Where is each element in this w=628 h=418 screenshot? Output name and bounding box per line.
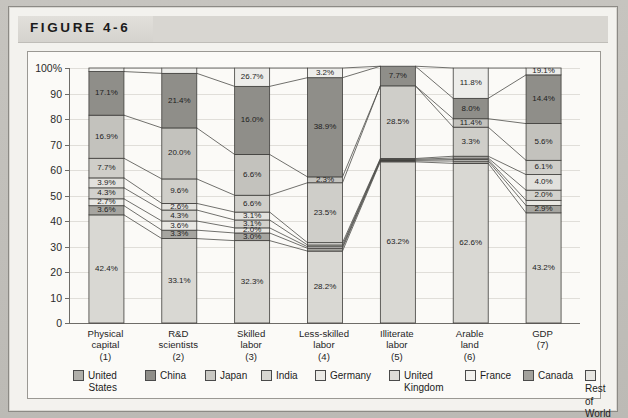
x-axis-label-line: Skilled: [215, 328, 288, 339]
x-axis-label: Physicalcapital(1): [69, 328, 142, 362]
y-tick-label: 30: [50, 241, 62, 253]
connector-line: [488, 163, 526, 212]
chart-card: 0102030405060708090100% 42.4%3.6%2.7%4.3…: [27, 51, 601, 399]
connector-line: [124, 158, 162, 179]
x-axis-label-line: Arable: [433, 328, 506, 339]
connector-line: [197, 128, 235, 155]
bar-segment: [453, 68, 488, 98]
legend-label: Canada: [538, 370, 573, 382]
bar-segment: [162, 68, 197, 73]
connector-line: [270, 78, 308, 87]
x-axis-label-line: labor: [360, 339, 433, 350]
legend-label: India: [276, 370, 298, 382]
legend-swatch: [261, 370, 272, 381]
bar-segment: [162, 203, 197, 210]
x-axis-label-line: GDP: [506, 328, 579, 339]
connector-line: [415, 86, 453, 119]
connector-line: [197, 179, 235, 195]
bar-segment: [380, 86, 415, 159]
x-axis-label-line: (7): [506, 339, 579, 350]
connector-line: [124, 72, 162, 74]
connector-line: [270, 183, 308, 195]
bar-segment: [235, 68, 270, 86]
x-axis-label-line: (1): [69, 351, 142, 362]
connector-line: [270, 228, 308, 247]
legend-item[interactable]: UnitedKingdom: [389, 370, 443, 395]
bar-segment: [162, 128, 197, 179]
bar-segment: [526, 75, 561, 124]
legend-label: UnitedKingdom: [404, 370, 443, 395]
bar-segment: [162, 221, 197, 230]
x-axis-label-line: (5): [360, 351, 433, 362]
figure-frame: FIGURE 4-6 0102030405060708090100% 42.4%…: [8, 6, 618, 412]
bar-segment: [526, 200, 561, 205]
connector-line: [343, 162, 381, 251]
legend-item[interactable]: Rest ofWorld: [585, 370, 611, 418]
y-tick-label: 100%: [35, 62, 62, 74]
y-tick-label: 20: [50, 266, 62, 278]
connector-line: [197, 221, 235, 228]
legend-label: Japan: [220, 370, 247, 382]
x-axis-label-line: (4): [288, 351, 361, 362]
bar-segment: [453, 119, 488, 127]
legend-swatch: [315, 370, 326, 381]
bar-segment: [308, 68, 343, 78]
bar-segment: [308, 183, 343, 243]
connector-line: [124, 178, 162, 204]
x-axis-label-line: (3): [215, 351, 288, 362]
bar-segment: [235, 241, 270, 323]
connector-line: [415, 66, 453, 98]
bar-segment: [89, 206, 124, 215]
connector-line: [197, 73, 235, 86]
legend-item[interactable]: UnitedStates: [73, 370, 117, 395]
bar-segment: [453, 163, 488, 323]
connector-line: [270, 154, 308, 176]
figure-header-band: [153, 16, 608, 42]
bar-segment: [453, 127, 488, 156]
bar-segment: [235, 195, 270, 212]
connector-line: [343, 86, 381, 177]
y-tick-label: 60: [50, 164, 62, 176]
legend-swatch: [389, 370, 400, 381]
figure-header: FIGURE 4-6: [18, 16, 608, 43]
connector-line: [343, 159, 381, 245]
connector-line: [415, 160, 453, 161]
legend-swatch: [585, 370, 596, 381]
stacked-bar-chart: 0102030405060708090100% 42.4%3.6%2.7%4.3…: [28, 52, 600, 398]
legend-swatch: [73, 370, 84, 381]
bar-segment: [89, 178, 124, 188]
x-axis-label: Illiteratelabor(5): [360, 328, 433, 362]
x-axis-label-line: Less-skilled: [288, 328, 361, 339]
bar-segment: [162, 179, 197, 203]
bar-segment: [162, 230, 197, 238]
connector-line: [488, 75, 526, 98]
connector-line: [343, 159, 381, 243]
connector-line: [124, 188, 162, 210]
y-tick-label: 80: [50, 113, 62, 125]
legend-item[interactable]: Canada: [523, 370, 573, 383]
figure-page: FIGURE 4-6 0102030405060708090100% 42.4%…: [0, 0, 628, 418]
connector-line: [488, 158, 526, 190]
legend-item[interactable]: China: [145, 370, 186, 383]
plot-axes: 0102030405060708090100% 42.4%3.6%2.7%4.3…: [69, 68, 580, 324]
bar-segment: [526, 160, 561, 174]
y-tick-label: 50: [50, 190, 62, 202]
x-axis-label: Skilledlabor(3): [215, 328, 288, 362]
figure-title: FIGURE 4-6: [30, 20, 130, 35]
legend-item[interactable]: Germany: [315, 370, 371, 383]
legend-swatch: [205, 370, 216, 381]
connector-line: [270, 220, 308, 245]
connector-line: [124, 115, 162, 128]
legend-item[interactable]: France: [465, 370, 511, 383]
connector-line: [197, 210, 235, 220]
bar-segment: [89, 68, 124, 72]
bar-segment: [380, 66, 415, 86]
legend-item[interactable]: India: [261, 370, 298, 383]
legend-item[interactable]: Japan: [205, 370, 247, 383]
bar-segment: [89, 72, 124, 116]
bar-segment: [235, 220, 270, 228]
x-axis-labels: Physicalcapital(1)R&Dscientists(2)Skille…: [69, 328, 579, 372]
bar-segment: [380, 162, 415, 323]
legend-label: France: [480, 370, 511, 382]
x-axis-label: R&Dscientists(2): [142, 328, 215, 362]
